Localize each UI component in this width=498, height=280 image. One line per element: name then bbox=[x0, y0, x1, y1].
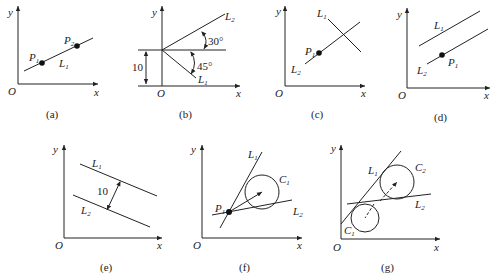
label-P1: P1 bbox=[28, 51, 39, 65]
y-axis-label: y bbox=[52, 143, 58, 155]
angle-45-label: 45° bbox=[197, 60, 212, 72]
panel-a: y x O P1 P2 L1 (a) bbox=[7, 6, 99, 121]
x-axis-label: x bbox=[156, 239, 162, 251]
origin-label: O bbox=[55, 239, 63, 251]
label-C1: C1 bbox=[279, 173, 290, 187]
origin-label: O bbox=[8, 85, 16, 97]
label-L2: L2 bbox=[414, 198, 425, 212]
x-axis-label: x bbox=[360, 87, 366, 99]
x-axis-label: x bbox=[433, 241, 439, 253]
origin-label: O bbox=[193, 239, 201, 251]
point-P1 bbox=[39, 60, 45, 66]
panel-b: y x O 30° 45° 10 L2 L1 (b) bbox=[132, 6, 241, 121]
point-P1 bbox=[226, 209, 232, 215]
label-L1: L1 bbox=[247, 148, 258, 162]
y-axis-label: y bbox=[396, 8, 402, 20]
label-L2: L2 bbox=[416, 64, 427, 78]
origin-label: O bbox=[157, 87, 165, 99]
angle-30-label: 30° bbox=[208, 35, 223, 47]
y-axis-label: y bbox=[275, 5, 281, 17]
panel-f: y x O P1 L1 L2 C1 (f) bbox=[190, 143, 303, 274]
point-P1 bbox=[439, 52, 445, 58]
label-P1: P1 bbox=[304, 45, 315, 59]
label-L2: L2 bbox=[80, 204, 91, 218]
distance-dimension-arrow bbox=[107, 182, 120, 210]
label-P2: P2 bbox=[63, 34, 75, 48]
angle-arc-30 bbox=[202, 32, 206, 49]
label-L2: L2 bbox=[290, 63, 301, 77]
origin-label: O bbox=[333, 241, 341, 253]
label-C2: C2 bbox=[415, 161, 426, 175]
label-L1: L1 bbox=[316, 7, 327, 21]
angle-arc-45 bbox=[191, 52, 195, 74]
x-axis-label: x bbox=[483, 89, 489, 101]
caption-c: (c) bbox=[311, 108, 324, 121]
label-L1: L1 bbox=[367, 164, 378, 178]
offset-10-label: 10 bbox=[132, 61, 144, 73]
line-L1 bbox=[341, 151, 401, 224]
label-P1: P1 bbox=[214, 202, 225, 216]
label-L1: L1 bbox=[433, 19, 444, 33]
x-axis-label: x bbox=[296, 239, 302, 251]
panel-d: y x O P1 L1 L2 (d) bbox=[396, 8, 490, 124]
label-P1: P1 bbox=[447, 56, 458, 70]
point-P1 bbox=[316, 50, 322, 56]
y-axis-label: y bbox=[7, 6, 13, 18]
line-L1 bbox=[220, 152, 262, 228]
center-direction-line-C1 bbox=[365, 204, 374, 218]
label-L1: L1 bbox=[91, 157, 102, 171]
distance-10-label: 10 bbox=[97, 185, 109, 197]
label-L1: L1 bbox=[58, 57, 69, 71]
label-L1: L1 bbox=[197, 73, 208, 87]
x-axis-label: x bbox=[93, 86, 99, 98]
panel-e: y x O 10 L1 L2 (e) bbox=[52, 143, 162, 274]
caption-g: (g) bbox=[381, 261, 394, 274]
caption-a: (a) bbox=[46, 108, 59, 121]
point-P2 bbox=[74, 43, 80, 49]
y-axis-label: y bbox=[190, 143, 196, 155]
caption-b: (b) bbox=[179, 108, 192, 121]
origin-label: O bbox=[398, 89, 406, 101]
caption-e: (e) bbox=[100, 261, 113, 274]
origin-label: O bbox=[275, 87, 283, 99]
y-axis-label: y bbox=[330, 142, 336, 154]
y-axis-label: y bbox=[151, 6, 157, 18]
x-axis-label: x bbox=[235, 87, 241, 99]
label-L2: L2 bbox=[292, 205, 303, 219]
diagram-canvas: y x O P1 P2 L1 (a) y x O 30° 45° 10 L2 L… bbox=[0, 0, 498, 280]
label-L2: L2 bbox=[224, 10, 235, 24]
caption-f: (f) bbox=[239, 261, 250, 274]
line-L1 bbox=[419, 11, 480, 46]
panel-c: y x O P1 L1 L2 (c) bbox=[275, 5, 366, 121]
line-L2 bbox=[427, 29, 488, 64]
panel-g: y x O L1 C2 L2 C1 (g) bbox=[330, 142, 440, 274]
line-L1 bbox=[328, 19, 361, 52]
caption-d: (d) bbox=[434, 111, 447, 124]
